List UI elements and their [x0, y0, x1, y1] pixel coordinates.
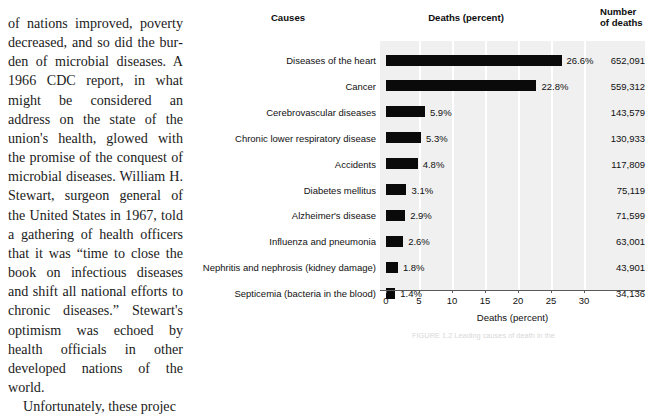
death-count: 43,901 [582, 262, 645, 273]
bar-value-label: 3.1% [411, 185, 433, 196]
death-count: 130,933 [582, 133, 645, 144]
death-count: 71,599 [582, 210, 645, 221]
bar-value-label: 1.8% [403, 262, 425, 273]
bar-row: Nephritis and nephrosis (kidney damage)1… [186, 258, 664, 284]
death-count: 559,312 [582, 81, 645, 92]
cause-label: Chronic lower respiratory disease [186, 133, 376, 144]
cause-label: Cerebrovascular diseases [186, 107, 376, 118]
cause-label: Influenza and pneumonia [186, 236, 376, 247]
cause-label: Diabetes mellitus [186, 185, 376, 196]
x-tick-mark [551, 290, 552, 293]
bar-value-label: 5.9% [430, 107, 452, 118]
x-tick-mark [485, 290, 486, 293]
death-count: 652,091 [582, 55, 645, 66]
death-count: 117,809 [582, 159, 645, 170]
death-count: 63,001 [582, 236, 645, 247]
x-tick-label: 25 [539, 295, 563, 306]
bar [386, 55, 562, 66]
bar-row: Accidents4.8%117,809 [186, 155, 664, 181]
x-tick-label: 10 [440, 295, 464, 306]
column-header-deaths-percent: Deaths (percent) [382, 12, 550, 23]
article-paragraph-next: Unfortunately, these projec [8, 397, 183, 416]
bar-row: Cerebrovascular diseases5.9%143,579 [186, 103, 664, 129]
bar-row: Diabetes mellitus3.1%75,119 [186, 181, 664, 207]
bar-value-label: 2.9% [410, 210, 432, 221]
x-tick-label: 30 [572, 295, 596, 306]
bar-row: Cancer22.8%559,312 [186, 77, 664, 103]
bar [386, 106, 425, 117]
x-tick-label: 0 [374, 295, 398, 306]
bar-value-label: 2.6% [408, 236, 430, 247]
cause-label: Diseases of the heart [186, 55, 376, 66]
cause-label: Nephritis and nephrosis (kidney damage) [186, 262, 376, 273]
bar [386, 158, 418, 169]
cause-label: Alzheimer's disease [186, 210, 376, 221]
bar [386, 184, 406, 195]
column-header-number-of-deaths: Number of deaths [600, 6, 664, 29]
x-tick-label: 20 [506, 295, 530, 306]
figure-leading-causes-of-death: Causes Deaths (percent) Number of deaths… [186, 0, 664, 339]
bar [386, 262, 398, 273]
bar [386, 132, 421, 143]
x-tick-label: 5 [407, 295, 431, 306]
bar-value-label: 4.8% [423, 159, 445, 170]
article-text-column: of nations improved, poverty decreased, … [8, 14, 183, 416]
bar-row: Influenza and pneumonia2.6%63,001 [186, 232, 664, 258]
article-paragraph-continued: of nations improved, poverty decreased, … [8, 14, 183, 397]
bar-row: Diseases of the heart26.6%652,091 [186, 51, 664, 77]
bar [386, 80, 536, 91]
cause-label: Septicemia (bacteria in the blood) [186, 288, 376, 299]
x-tick-mark [584, 290, 585, 293]
x-tick-mark [419, 290, 420, 293]
bar-value-label: 5.3% [426, 133, 448, 144]
bar [386, 210, 405, 221]
x-tick-mark [518, 290, 519, 293]
x-tick-mark [452, 290, 453, 293]
x-tick-label: 15 [473, 295, 497, 306]
bar-row: Chronic lower respiratory disease5.3%130… [186, 129, 664, 155]
bar [386, 236, 403, 247]
bar-value-label: 22.8% [541, 81, 568, 92]
cause-label: Cancer [186, 81, 376, 92]
figure-caption: FIGURE 1.2 Leading causes of death in th… [412, 331, 664, 340]
x-axis-title: Deaths (percent) [380, 312, 645, 323]
bar-row: Alzheimer's disease2.9%71,599 [186, 206, 664, 232]
column-header-causes: Causes [200, 12, 376, 23]
death-count: 143,579 [582, 107, 645, 118]
x-tick-mark [386, 290, 387, 293]
cause-label: Accidents [186, 159, 376, 170]
death-count: 75,119 [582, 185, 645, 196]
